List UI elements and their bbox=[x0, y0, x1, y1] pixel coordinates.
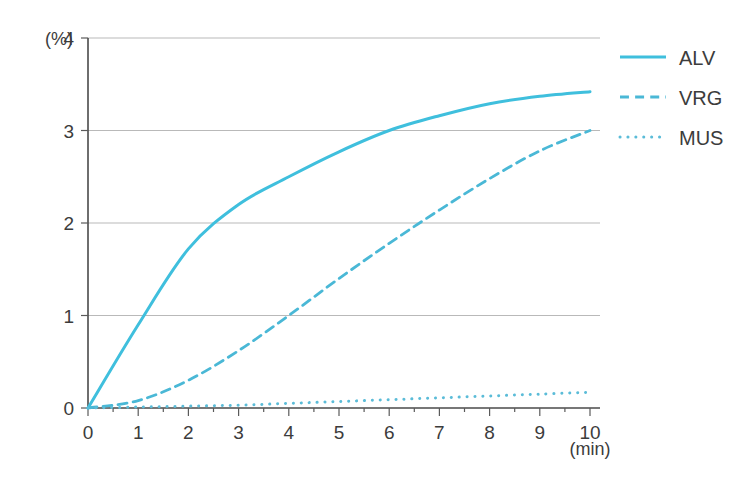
x-tick-label-5: 5 bbox=[334, 422, 345, 443]
series-line-mus bbox=[88, 392, 590, 408]
x-tick-label-6: 6 bbox=[384, 422, 395, 443]
x-tick-label-4: 4 bbox=[284, 422, 295, 443]
legend-label-vrg: VRG bbox=[679, 87, 722, 109]
legend-item-alv[interactable]: ALV bbox=[620, 47, 716, 69]
x-tick-label-8: 8 bbox=[484, 422, 495, 443]
y-axis-unit-label: (%) bbox=[45, 29, 73, 49]
x-tick-label-7: 7 bbox=[434, 422, 445, 443]
legend-item-vrg[interactable]: VRG bbox=[620, 87, 722, 109]
y-tick-label-2: 2 bbox=[63, 213, 74, 234]
x-tick-label-2: 2 bbox=[183, 422, 194, 443]
data-series bbox=[88, 92, 590, 408]
series-line-alv bbox=[88, 92, 590, 408]
x-tick-label-1: 1 bbox=[133, 422, 144, 443]
line-chart: 012345678910 01234 (%) (min) ALVVRGMUS bbox=[0, 0, 740, 480]
chart-legend: ALVVRGMUS bbox=[620, 47, 723, 149]
x-axis-tick-labels: 012345678910 bbox=[83, 422, 601, 443]
y-axis-tick-labels: 01234 bbox=[63, 28, 74, 419]
legend-label-alv: ALV bbox=[679, 47, 716, 69]
x-tick-label-0: 0 bbox=[83, 422, 94, 443]
legend-item-mus[interactable]: MUS bbox=[620, 127, 723, 149]
series-line-vrg bbox=[88, 131, 590, 409]
legend-label-mus: MUS bbox=[679, 127, 723, 149]
x-tick-label-9: 9 bbox=[535, 422, 546, 443]
y-tick-label-0: 0 bbox=[63, 398, 74, 419]
y-axis-ticks bbox=[81, 38, 88, 408]
y-tick-label-3: 3 bbox=[63, 121, 74, 142]
chart-container: 012345678910 01234 (%) (min) ALVVRGMUS bbox=[0, 0, 740, 480]
y-tick-label-1: 1 bbox=[63, 306, 74, 327]
x-tick-label-3: 3 bbox=[233, 422, 244, 443]
x-axis-unit-label: (min) bbox=[570, 439, 611, 459]
